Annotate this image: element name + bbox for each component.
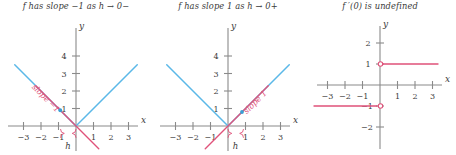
y-tick-label: 2 bbox=[213, 87, 218, 96]
open-circle-marker-upper bbox=[378, 62, 382, 66]
x-tick-label: −1 bbox=[357, 92, 369, 101]
y-tick-label: 3 bbox=[61, 70, 66, 79]
x-tick-label: −3 bbox=[18, 133, 30, 142]
y-tick-label: 2 bbox=[365, 39, 370, 48]
x-tick-label: −1 bbox=[53, 133, 65, 142]
x-tick-label: −3 bbox=[322, 92, 334, 101]
x-tick-label: −1 bbox=[205, 133, 217, 142]
x-tick-label: 3 bbox=[278, 133, 283, 142]
x-tick-label: −2 bbox=[187, 133, 199, 142]
x-tick-label: −2 bbox=[35, 133, 47, 142]
x-tick-label: 3 bbox=[126, 133, 131, 142]
y-tick-label: 4 bbox=[213, 52, 218, 61]
y-tick-label: −2 bbox=[361, 123, 373, 132]
y-axis-label: y bbox=[382, 19, 389, 29]
h-label-left: h bbox=[65, 141, 70, 151]
y-tick-label: 2 bbox=[61, 87, 66, 96]
x-axis-label: x bbox=[293, 115, 298, 125]
x-tick-label: −2 bbox=[339, 92, 351, 101]
x-axis-label: x bbox=[141, 115, 146, 125]
x-tick-label: 3 bbox=[430, 92, 435, 101]
panel-derivative-undefined: f ′(0) is undefined −3 −2 −1 bbox=[304, 0, 456, 155]
panel-caption-right: f ′(0) is undefined bbox=[304, 1, 456, 11]
x-tick-label: 2 bbox=[260, 133, 265, 142]
open-circle-marker-lower bbox=[378, 104, 382, 108]
plot-area-middle: −3 −2 −1 1 2 3 1 2 3 4 x y bbox=[152, 16, 304, 155]
panel-slope-negative-one: f has slope −1 as h → 0− −3 −2 bbox=[0, 0, 152, 155]
x-tick-label: 1 bbox=[395, 92, 400, 101]
panel-slope-positive-one: f has slope 1 as h → 0+ −3 −2 −1 bbox=[152, 0, 304, 155]
plot-area-right: −3 −2 −1 1 2 3 2 1 −1 −2 x y bbox=[304, 16, 456, 155]
axes-right bbox=[317, 26, 442, 149]
x-tick-label: 1 bbox=[91, 133, 96, 142]
x-tick-label: −3 bbox=[170, 133, 182, 142]
graph-derivative-step: −3 −2 −1 1 2 3 2 1 −1 −2 x y bbox=[304, 16, 456, 155]
slope-label-left: slope −1 bbox=[30, 82, 62, 114]
x-axis-label: x bbox=[445, 74, 450, 84]
h-brace-middle bbox=[228, 129, 244, 138]
panel-caption-left: f has slope −1 as h → 0− bbox=[0, 1, 152, 11]
y-tick-label: 4 bbox=[61, 52, 66, 61]
x-tick-label: 2 bbox=[412, 92, 417, 101]
graph-slope-negative-one: −3 −2 −1 1 2 3 1 2 3 4 x y bbox=[0, 16, 152, 155]
y-axis-label: y bbox=[230, 21, 237, 31]
derivative-absolute-value-figure: f has slope −1 as h → 0− −3 −2 bbox=[0, 0, 456, 155]
h-label-middle: h bbox=[233, 141, 238, 151]
graph-slope-positive-one: −3 −2 −1 1 2 3 1 2 3 4 x y bbox=[152, 16, 304, 155]
panel-caption-middle: f has slope 1 as h → 0+ bbox=[152, 1, 304, 11]
y-tick-label: 3 bbox=[213, 70, 218, 79]
y-axis-label: y bbox=[78, 21, 85, 31]
x-tick-label: 2 bbox=[108, 133, 113, 142]
slope-label-middle: slope 1 bbox=[242, 89, 269, 116]
plot-area-left: −3 −2 −1 1 2 3 1 2 3 4 x y bbox=[0, 16, 152, 155]
y-tick-label: 1 bbox=[365, 60, 370, 69]
